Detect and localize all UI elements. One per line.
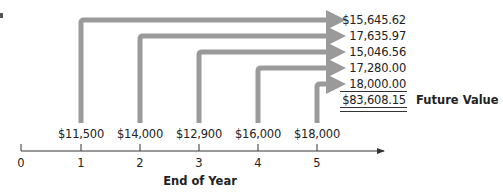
tick-label-5: 5 [307, 156, 327, 170]
total-double-underline [340, 107, 407, 112]
future-value-4: 17,280.00 [316, 61, 406, 75]
tick-label-4: 4 [248, 156, 268, 170]
total-future-value: $83,608.15 [316, 93, 406, 107]
sum-line [340, 91, 407, 92]
tick-label-0: 0 [11, 156, 31, 170]
tick-label-1: 1 [71, 156, 91, 170]
future-value-5: 18,000.00 [316, 77, 406, 91]
future-value-3: 15,046.56 [316, 45, 406, 59]
tick-label-3: 3 [189, 156, 209, 170]
tick-label-2: 2 [130, 156, 150, 170]
future-value-1: $15,645.62 [316, 13, 406, 27]
axis-title: End of Year [140, 174, 260, 188]
flow-arrow-year-2 [140, 36, 336, 123]
future-value-label: Future Value [416, 93, 499, 107]
payment-year-5: $18,000 [282, 127, 352, 141]
future-value-2: 17,635.97 [316, 29, 406, 43]
